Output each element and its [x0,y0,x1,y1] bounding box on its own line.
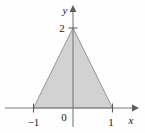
y-tick-label-two: 2 [59,22,65,34]
origin-label: 0 [61,111,67,123]
figure-container: −1 0 1 2 x y [0,0,145,133]
x-axis-label: x [128,114,134,126]
x-tick-label-one: 1 [108,116,114,128]
y-axis-arrowhead [70,5,77,12]
triangle-area-plot: −1 0 1 2 x y [0,0,145,133]
x-tick-label-minus-one: −1 [28,116,40,128]
x-axis-arrowhead [132,105,139,112]
y-axis-label: y [62,4,68,16]
